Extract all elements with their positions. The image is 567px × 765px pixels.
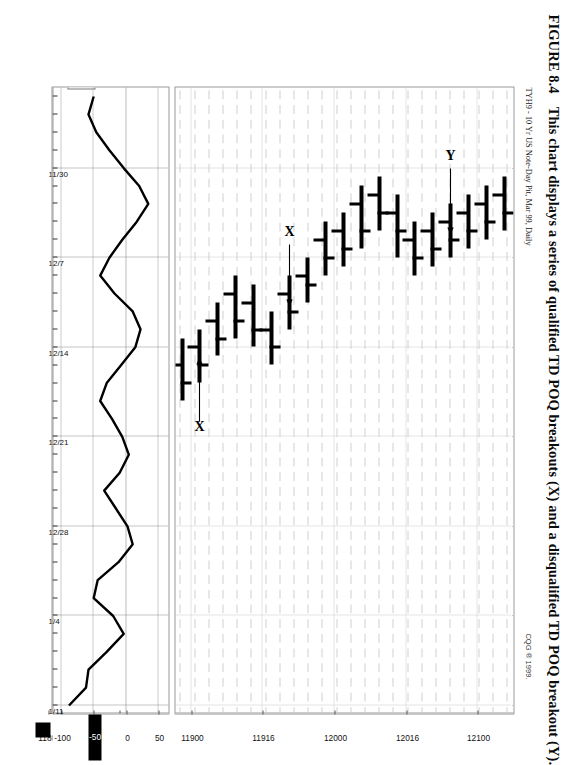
price-bar[interactable]	[484, 185, 488, 239]
date-axis-tick	[52, 238, 57, 239]
date-axis-tick	[52, 525, 57, 526]
bar-close-tick	[420, 229, 431, 232]
price-bar[interactable]	[215, 302, 219, 356]
tdrei-line	[52, 87, 168, 713]
grid-dot-row	[392, 87, 393, 712]
bar-close-tick	[259, 328, 270, 331]
date-axis-tick	[52, 185, 57, 186]
date-axis-tick	[52, 614, 57, 615]
grid-dot-row	[293, 87, 294, 712]
price-chart-panel[interactable]: YXXXX	[174, 86, 514, 713]
annotation-arrow	[272, 240, 306, 312]
grid-dot-row	[421, 87, 422, 712]
price-gridline	[405, 87, 406, 712]
grid-dot-row	[307, 87, 308, 712]
grid-dot-row	[279, 87, 280, 712]
date-axis-tick	[52, 543, 57, 544]
chart-instrument-title: TYH9 - 10 Yr US Note-Day Pit, Mar 99, Da…	[523, 87, 532, 245]
price-scale-label: 12100	[455, 730, 501, 744]
chart-copyright: CQG ® 1999.	[523, 633, 532, 679]
price-bar[interactable]	[323, 221, 327, 275]
grid-dot-row	[222, 87, 223, 712]
grid-dot-row	[492, 87, 493, 712]
date-axis-tick	[52, 131, 57, 132]
bar-close-tick	[492, 193, 503, 196]
indicator-scale-tick	[126, 710, 127, 714]
price-bar[interactable]	[395, 194, 399, 257]
date-axis-tick	[52, 453, 57, 454]
bar-open-tick	[215, 337, 226, 340]
date-axis-tick	[52, 95, 57, 96]
price-bar[interactable]	[377, 176, 381, 230]
bar-open-tick	[412, 256, 423, 259]
price-scale-label: 11916	[240, 730, 286, 744]
date-axis-tick	[52, 220, 57, 221]
price-gridline	[333, 87, 334, 712]
price-bar[interactable]	[412, 221, 416, 275]
tdrei-indicator-panel[interactable]: TDREI	[52, 86, 169, 713]
bar-close-tick	[313, 238, 324, 241]
bar-open-tick	[233, 319, 244, 322]
price-gridline	[261, 87, 262, 712]
date-gridline	[175, 346, 513, 347]
annotation-x-breakout-2: X	[194, 418, 204, 434]
price-bar[interactable]	[233, 275, 237, 338]
date-axis-tick	[52, 417, 57, 418]
date-axis-tick	[52, 668, 57, 669]
price-scale-tick	[334, 710, 335, 714]
bar-open-tick	[484, 220, 495, 223]
price-gridline	[476, 87, 477, 712]
bar-close-tick	[241, 301, 252, 304]
grid-dot-row	[478, 87, 479, 712]
date-axis-tick	[52, 346, 57, 347]
date-axis-tick	[52, 435, 57, 436]
bar-close-tick	[188, 345, 199, 348]
price-bar[interactable]	[502, 176, 506, 230]
bar-open-tick	[395, 229, 406, 232]
bar-close-tick	[223, 292, 234, 295]
price-bar[interactable]	[341, 212, 345, 266]
indicator-scale-tick	[158, 710, 159, 714]
figure-caption-text: This chart displays a series of qualifie…	[545, 106, 561, 765]
price-scale-tick	[191, 710, 192, 714]
grid-dot-row	[250, 87, 251, 712]
date-axis-tick	[52, 704, 57, 705]
grid-dot-row	[407, 87, 408, 712]
indicator-current-value-label: -50	[72, 731, 118, 744]
date-axis-tick	[52, 507, 57, 508]
date-axis-tick	[52, 149, 57, 150]
price-scale-tick	[262, 710, 263, 714]
date-axis-tick	[52, 382, 57, 383]
grid-dot-row	[321, 87, 322, 712]
date-axis-tick	[52, 256, 57, 257]
bar-close-tick	[331, 229, 342, 232]
bar-open-tick	[341, 247, 352, 250]
chart-container: TYH9 - 10 Yr US Note-Day Pit, Mar 99, Da…	[52, 86, 514, 713]
indicator-scale-axis: 500-50-100-50	[52, 713, 169, 759]
price-scale-tick	[477, 710, 478, 714]
date-axis-tick	[52, 292, 57, 293]
date-axis-tick	[52, 579, 57, 580]
date-axis-tick	[52, 274, 57, 275]
bar-close-tick	[474, 202, 485, 205]
annotation-arrow	[183, 351, 217, 425]
scale-corner-block	[35, 722, 50, 737]
date-axis-tick	[52, 310, 57, 311]
grid-dot-row	[265, 87, 266, 712]
price-bar[interactable]	[251, 284, 255, 347]
price-bar[interactable]	[359, 185, 363, 248]
date-axis-tick	[52, 650, 57, 651]
date-gridline	[175, 704, 513, 705]
bar-open-tick	[305, 283, 316, 286]
bar-open-tick	[502, 211, 513, 214]
annotation-y-disqualified-breakout: Y	[445, 147, 455, 163]
date-gridline	[175, 435, 513, 436]
date-axis-label: 1/4	[48, 616, 59, 625]
price-scale-label: 12000	[312, 730, 358, 744]
price-scale-tick	[406, 710, 407, 714]
price-scale-axis: 1210012016120001191611900118161180011716…	[174, 713, 514, 759]
price-bar[interactable]	[269, 311, 273, 365]
date-axis-tick	[52, 632, 57, 633]
grid-dot-row	[236, 87, 237, 712]
